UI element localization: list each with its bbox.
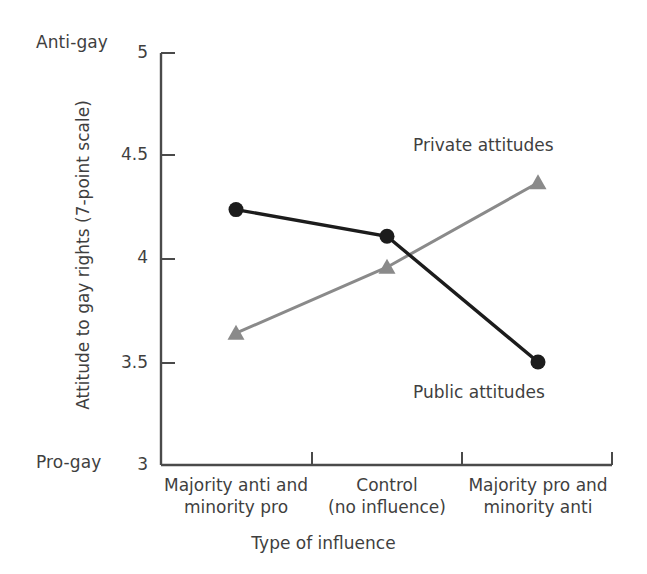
x-axis-title: Type of influence <box>0 533 647 553</box>
public-marker-3 <box>531 355 546 370</box>
public-marker-2 <box>380 229 395 244</box>
x-category-label-3: Majority pro and minority anti <box>458 474 618 518</box>
x-category-2-line-2: (no influence) <box>328 497 446 517</box>
x-category-label-1: Majority anti and minority pro <box>156 474 316 518</box>
public-marker-1 <box>229 202 244 217</box>
line-chart-figure: Anti-gay Pro-gay Attitude to gay rights … <box>0 0 647 574</box>
x-category-3-line-2: minority anti <box>484 497 593 517</box>
private-marker-2 <box>379 259 396 274</box>
public-attitudes-label: Public attitudes <box>413 382 545 402</box>
private-attitudes-line <box>236 183 538 333</box>
x-category-2-line-1: Control <box>356 475 417 495</box>
private-marker-3 <box>530 174 547 189</box>
x-category-1-line-1: Majority anti and <box>164 475 308 495</box>
x-category-label-2: Control (no influence) <box>307 474 467 518</box>
private-attitudes-label: Private attitudes <box>413 135 554 155</box>
x-category-3-line-1: Majority pro and <box>468 475 607 495</box>
x-category-1-line-2: minority pro <box>184 497 288 517</box>
